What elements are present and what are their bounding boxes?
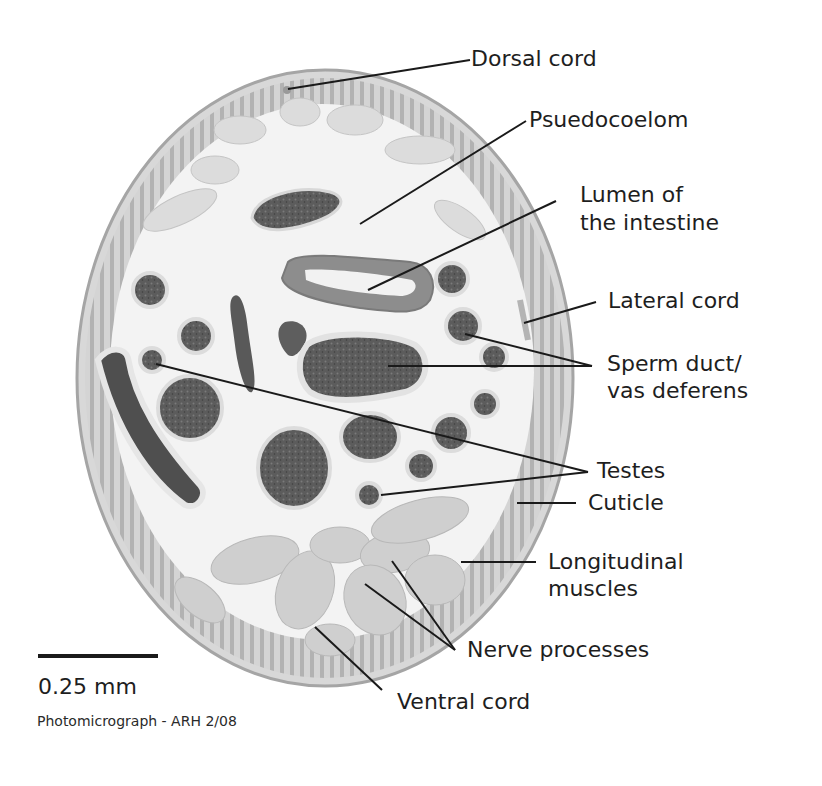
testis-left	[140, 348, 164, 372]
label-lateral-cord: Lateral cord	[608, 288, 740, 313]
label-pseudocoelom: Psuedocoelom	[529, 107, 688, 132]
label-nerve-processes: Nerve processes	[467, 637, 649, 662]
label-cuticle: Cuticle	[588, 490, 664, 515]
dorsal-cord	[283, 86, 291, 94]
label-sperm-duct-line1: Sperm duct/	[607, 351, 742, 376]
label-sperm-duct-line2: vas deferens	[607, 378, 748, 403]
label-ventral-cord: Ventral cord	[397, 689, 530, 714]
label-lumen-line2: the intestine	[580, 210, 719, 235]
label-longitudinal-line1: Longitudinal	[548, 549, 684, 574]
scale-bar-label: 0.25 mm	[38, 674, 137, 699]
label-dorsal-cord: Dorsal cord	[471, 46, 597, 71]
sperm-duct	[300, 334, 426, 399]
specimen-body	[77, 70, 573, 686]
label-longitudinal-line2: muscles	[548, 576, 638, 601]
label-testes: Testes	[597, 458, 665, 483]
testis-bottom	[357, 483, 381, 507]
label-lumen-line1: Lumen of	[580, 182, 683, 207]
photo-credit: Photomicrograph - ARH 2/08	[37, 713, 237, 729]
